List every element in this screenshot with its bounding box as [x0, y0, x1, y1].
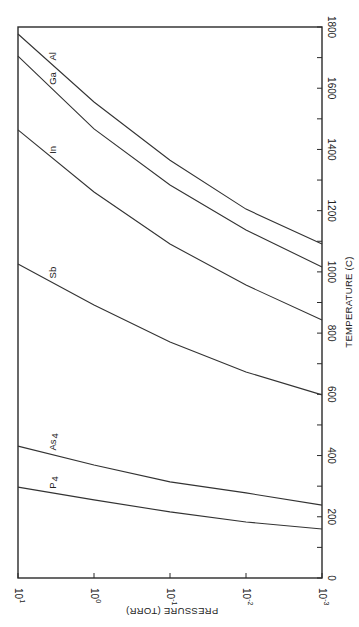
temperature-tick-label: 1400 — [326, 138, 337, 161]
temperature-axis-title: TEMPERATURE (C) — [343, 256, 354, 347]
vapor-pressure-curves — [18, 34, 322, 529]
plot-frame — [18, 27, 322, 578]
vapor-pressure-chart: 020040060080010001200140016001800 10-310… — [0, 0, 359, 627]
curve-label-ga: Ga — [47, 71, 58, 84]
temperature-tick-label: 800 — [326, 325, 337, 342]
temperature-tick-label: 1800 — [326, 16, 337, 39]
curve-al — [18, 34, 322, 244]
curve-p4 — [18, 487, 322, 529]
curve-labels: P4As4SbInGaAl — [47, 52, 60, 489]
temperature-tick-label: 400 — [326, 447, 337, 464]
pressure-tick-label: 100 — [89, 588, 102, 603]
curve-label-al: Al — [47, 52, 58, 60]
temperature-tick-label: 200 — [326, 508, 337, 525]
curve-label-sb: Sb — [47, 267, 58, 279]
temperature-tick-label: 600 — [326, 386, 337, 403]
pressure-axis-tick-labels: 10-310-210-1100101 — [13, 588, 330, 605]
curve-ga — [18, 56, 322, 267]
pressure-axis-ticks — [18, 573, 322, 578]
curve-in — [18, 130, 322, 320]
temperature-tick-label: 1000 — [326, 261, 337, 284]
temperature-axis-tick-labels: 020040060080010001200140016001800 — [326, 16, 337, 581]
curve-label-p4: P4 — [47, 476, 60, 489]
temperature-tick-label: 0 — [326, 575, 337, 581]
pressure-tick-label: 10-1 — [165, 588, 178, 605]
curve-label-in: In — [47, 146, 58, 154]
temperature-tick-label: 1200 — [326, 200, 337, 223]
pressure-tick-label: 10-2 — [241, 588, 254, 605]
temperature-tick-label: 1600 — [326, 77, 337, 100]
pressure-axis-title: PRESSURE (TORR) — [126, 606, 218, 617]
curve-sb — [18, 264, 322, 395]
curve-as4 — [18, 446, 322, 505]
pressure-tick-label: 10-3 — [317, 588, 330, 605]
pressure-tick-label: 101 — [13, 588, 26, 603]
curve-label-as4: As4 — [47, 433, 60, 450]
temperature-axis-ticks — [317, 27, 322, 578]
